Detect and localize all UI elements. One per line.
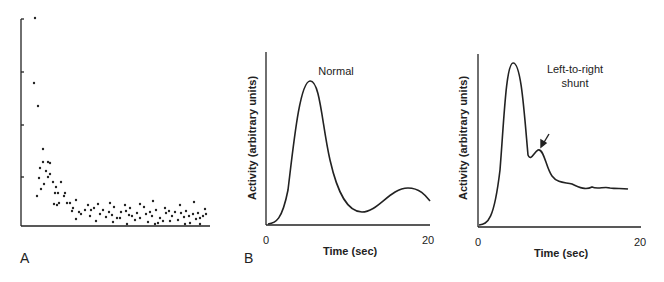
panel-c-x-tick-0: 0 xyxy=(475,236,481,248)
scatter-point xyxy=(154,223,156,225)
scatter-point xyxy=(52,181,54,183)
scatter-point xyxy=(129,207,131,209)
scatter-point xyxy=(49,162,51,164)
scatter-point xyxy=(152,200,154,202)
scatter-point xyxy=(155,209,157,211)
scatter-point xyxy=(119,217,121,219)
panel-b-x-tick-0: 0 xyxy=(263,234,269,246)
panel-c-x-tick-20: 20 xyxy=(634,236,646,248)
scatter-point xyxy=(147,221,149,223)
scatter-point xyxy=(145,213,147,215)
scatter-point xyxy=(89,215,91,217)
scatter-point xyxy=(53,203,55,205)
scatter-point xyxy=(78,211,80,213)
scatter-point xyxy=(111,214,113,216)
scatter-point xyxy=(139,217,141,219)
scatter-point xyxy=(204,208,206,210)
panel-a-axes xyxy=(21,19,210,226)
scatter-point xyxy=(113,206,115,208)
scatter-point xyxy=(54,192,56,194)
scatter-point xyxy=(116,217,118,219)
scatter-point xyxy=(87,204,89,206)
scatter-point xyxy=(66,202,68,204)
scatter-point xyxy=(63,195,65,197)
scatter-point xyxy=(112,221,114,223)
panel-c-y-axis-label: Activity (arbitrary units) xyxy=(457,76,469,200)
panel-c-title: Left-to-right shunt xyxy=(530,62,620,90)
scatter-point xyxy=(157,222,159,224)
scatter-point xyxy=(136,212,138,214)
scatter-point xyxy=(102,209,104,211)
scatter-point xyxy=(93,207,95,209)
scatter-point xyxy=(139,203,141,205)
scatter-point xyxy=(33,82,35,84)
scatter-point xyxy=(58,202,60,204)
scatter-point xyxy=(75,199,77,201)
scatter-point xyxy=(105,216,107,218)
scatter-point xyxy=(174,211,176,213)
scatter-point xyxy=(189,222,191,224)
scatter-point xyxy=(183,216,185,218)
scatter-point xyxy=(64,192,66,194)
scatter-point xyxy=(39,167,41,169)
scatter-point xyxy=(202,215,204,217)
scatter-point xyxy=(97,203,99,205)
scatter-point xyxy=(108,211,110,213)
panel-b-normal-curve xyxy=(268,81,430,224)
scatter-point xyxy=(49,173,51,175)
scatter-point xyxy=(168,210,170,212)
scatter-point xyxy=(165,212,167,214)
scatter-point xyxy=(188,215,190,217)
scatter-point xyxy=(149,211,151,213)
scatter-point xyxy=(57,192,59,194)
scatter-point xyxy=(40,188,42,190)
scatter-point xyxy=(42,148,44,150)
scatter-point xyxy=(171,215,173,217)
panel-b-y-axis-label: Activity (arbitrary units) xyxy=(246,76,258,200)
scatter-point xyxy=(169,220,171,222)
panel-c-x-axis-label: Time (sec) xyxy=(534,247,588,259)
panel-b-x-tick-20: 20 xyxy=(422,234,434,246)
scatter-point xyxy=(37,105,39,107)
panel-b-title: Normal xyxy=(296,64,376,78)
scatter-point xyxy=(60,181,62,183)
scatter-point xyxy=(195,218,197,220)
scatter-point xyxy=(84,209,86,211)
scatter-point xyxy=(185,210,187,212)
scatter-point xyxy=(126,223,128,225)
scatter-point xyxy=(124,204,126,206)
panel-letter-a: A xyxy=(20,250,29,266)
scatter-point xyxy=(159,217,161,219)
scatter-point xyxy=(80,213,82,215)
scatter-point xyxy=(109,202,111,204)
scatter-point xyxy=(125,210,127,212)
scatter-point xyxy=(197,212,199,214)
scatter-point xyxy=(95,220,97,222)
scatter-point xyxy=(45,170,47,172)
scatter-point xyxy=(75,218,77,220)
scatter-point xyxy=(164,207,166,209)
scatter-point xyxy=(205,213,207,215)
scatter-point xyxy=(134,219,136,221)
scatter-point xyxy=(36,195,38,197)
scatter-point xyxy=(199,223,201,225)
panel-b-x-axis-label: Time (sec) xyxy=(323,245,377,257)
scatter-point xyxy=(192,213,194,215)
panel-c-title-line2: shunt xyxy=(530,76,620,90)
scatter-point xyxy=(193,201,195,203)
figure-canvas xyxy=(0,0,664,282)
scatter-point xyxy=(184,223,186,225)
scatter-point xyxy=(90,209,92,211)
scatter-point xyxy=(128,214,130,216)
scatter-point xyxy=(151,215,153,217)
scatter-point xyxy=(43,183,45,185)
scatter-point xyxy=(42,161,44,163)
scatter-point xyxy=(99,213,101,215)
scatter-point xyxy=(47,176,49,178)
scatter-point xyxy=(34,17,36,19)
scatter-point xyxy=(180,212,182,214)
panel-a-scatter-points xyxy=(33,17,207,225)
scatter-point xyxy=(177,219,179,221)
scatter-point xyxy=(120,211,122,213)
panel-c-title-line1: Left-to-right xyxy=(530,62,620,76)
